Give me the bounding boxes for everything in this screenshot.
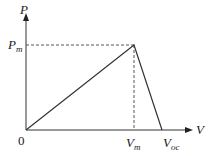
y-axis-label: P bbox=[20, 3, 28, 16]
pv-diagram: P Pm 0 Vm Voc V bbox=[0, 0, 211, 156]
vm-label-sub: m bbox=[134, 142, 141, 152]
pm-label: Pm bbox=[8, 38, 22, 54]
pm-label-sub: m bbox=[16, 44, 23, 54]
diagram-graphics bbox=[0, 0, 211, 156]
origin-label: 0 bbox=[18, 134, 25, 147]
voc-label-sub: oc bbox=[171, 142, 180, 152]
x-axis-arrow-icon bbox=[185, 127, 193, 133]
voc-label-main: V bbox=[163, 135, 171, 150]
pm-label-main: P bbox=[8, 37, 16, 52]
power-curve bbox=[26, 45, 162, 130]
vm-label: Vm bbox=[126, 136, 140, 152]
vm-label-main: V bbox=[126, 135, 134, 150]
x-axis-label: V bbox=[196, 123, 204, 136]
voc-label: Voc bbox=[163, 136, 179, 152]
